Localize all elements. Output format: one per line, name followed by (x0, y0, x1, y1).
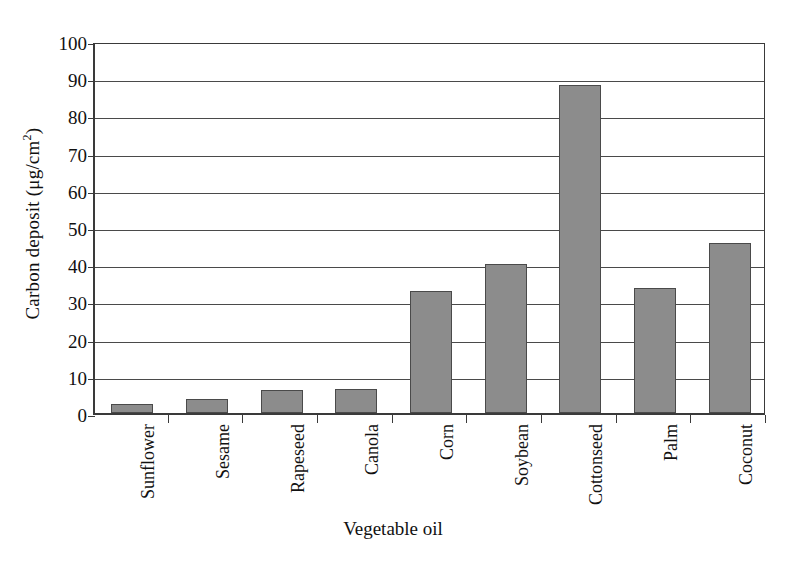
y-tick-label-40: 40 (45, 257, 87, 276)
bar-corn (410, 291, 452, 413)
bar-soybean (485, 264, 527, 413)
bar-canola (335, 389, 377, 413)
y-tick-label-30: 30 (45, 294, 87, 313)
y-tick-label-20: 20 (45, 331, 87, 350)
bar-chart-figure: Carbon deposit (μg/cm2) 1009080706050403… (0, 0, 786, 565)
x-category-label-text: Palm (662, 424, 680, 461)
y-axis-title-paren: ) (22, 128, 43, 135)
y-tick-mark-70 (88, 156, 95, 157)
gridline-40 (95, 267, 764, 268)
y-axis-tick-labels: 1009080706050403020100 (43, 0, 87, 565)
y-tick-label-10: 10 (45, 368, 87, 387)
x-tick-mark-9 (765, 415, 766, 423)
x-tick-mark-4 (392, 415, 393, 423)
x-tick-mark-6 (541, 415, 542, 423)
x-tick-mark-5 (466, 415, 467, 423)
y-tick-mark-100 (88, 44, 95, 45)
x-tick-mark-1 (168, 415, 169, 423)
x-axis-title: Vegetable oil (0, 518, 786, 540)
bar-sesame (186, 399, 228, 413)
y-tick-label-60: 60 (45, 182, 87, 201)
bar-sunflower (111, 404, 153, 413)
x-category-label-text: Cottonseed (587, 424, 605, 505)
x-category-label-text: Sunflower (139, 424, 157, 499)
x-tick-mark-2 (242, 415, 243, 423)
x-category-label-text: Soybean (513, 424, 531, 486)
y-tick-mark-20 (88, 342, 95, 343)
x-category-label-text: Canola (363, 424, 381, 475)
gridline-50 (95, 230, 764, 231)
plot-area (93, 43, 765, 415)
x-tick-mark-7 (616, 415, 617, 423)
y-tick-label-100: 100 (45, 34, 87, 53)
y-tick-mark-90 (88, 81, 95, 82)
x-category-label-text: Corn (438, 424, 456, 460)
x-tick-mark-8 (690, 415, 691, 423)
y-tick-mark-50 (88, 230, 95, 231)
y-tick-mark-10 (88, 379, 95, 380)
gridline-80 (95, 118, 764, 119)
y-tick-label-80: 80 (45, 108, 87, 127)
y-tick-mark-60 (88, 193, 95, 194)
bar-coconut (709, 243, 751, 413)
bar-cottonseed (559, 85, 601, 413)
x-category-label-text: Rapeseed (289, 424, 307, 493)
y-tick-label-0: 0 (45, 406, 87, 425)
y-tick-mark-80 (88, 118, 95, 119)
x-tick-mark-3 (317, 415, 318, 423)
y-tick-mark-40 (88, 267, 95, 268)
x-category-label-text: Coconut (737, 424, 755, 485)
gridline-70 (95, 156, 764, 157)
y-tick-label-50: 50 (45, 220, 87, 239)
bar-palm (634, 288, 676, 413)
gridline-60 (95, 193, 764, 194)
gridline-90 (95, 81, 764, 82)
y-tick-mark-30 (88, 304, 95, 305)
y-axis-title-text: Carbon deposit (μg/cm (22, 141, 43, 320)
bar-rapeseed (261, 390, 303, 413)
y-axis-title-superscript: 2 (20, 134, 34, 140)
x-category-label-text: Sesame (214, 424, 232, 479)
y-tick-label-90: 90 (45, 71, 87, 90)
x-axis-tick-marks (93, 415, 765, 424)
y-tick-label-70: 70 (45, 145, 87, 164)
y-axis-title: Carbon deposit (μg/cm2) (20, 24, 43, 424)
